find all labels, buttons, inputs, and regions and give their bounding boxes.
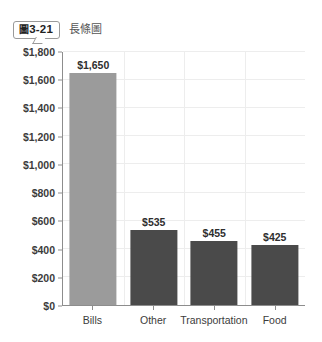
x-axis-tick-label: Food bbox=[263, 314, 287, 326]
y-axis-tick-label: $600 bbox=[32, 216, 55, 227]
bar-slot: $425 bbox=[245, 52, 306, 305]
y-axis-tick-label: $0 bbox=[43, 301, 55, 312]
y-axis-tick-label: $400 bbox=[32, 244, 55, 255]
y-axis-tick-label: $1,000 bbox=[23, 159, 55, 170]
y-axis: $0$200$400$600$800$1,000$1,200$1,400$1,6… bbox=[0, 52, 62, 306]
bar-series: $1,650$535$455$425 bbox=[63, 52, 305, 305]
x-axis-tick-label: Bills bbox=[83, 314, 102, 326]
plot-frame: $1,650$535$455$425 bbox=[62, 52, 305, 306]
x-axis-category: Other bbox=[123, 306, 184, 332]
figure-caption: 圖3-21 長條圖 bbox=[13, 21, 102, 39]
figure-number-badge: 圖3-21 bbox=[13, 21, 60, 39]
bar-value-label: $535 bbox=[142, 216, 165, 228]
x-axis-category: Food bbox=[244, 306, 305, 332]
bar[interactable] bbox=[251, 245, 298, 305]
y-axis-tick-label: $800 bbox=[32, 188, 55, 199]
bar[interactable] bbox=[130, 230, 177, 305]
x-axis-tick-mark bbox=[92, 306, 93, 310]
x-axis: BillsOtherTransportationFood bbox=[62, 306, 305, 332]
y-axis-tick-label: $1,600 bbox=[23, 75, 55, 86]
bar-slot: $535 bbox=[124, 52, 185, 305]
bar[interactable] bbox=[70, 73, 117, 305]
figure-badge-cjk-label: 圖 bbox=[19, 24, 29, 35]
y-axis-tick-label: $1,200 bbox=[23, 131, 55, 142]
x-axis-tick-mark bbox=[275, 306, 276, 310]
figure-caption-text: 長條圖 bbox=[69, 21, 102, 38]
bar-value-label: $425 bbox=[263, 231, 286, 243]
bar[interactable] bbox=[191, 241, 238, 305]
x-axis-category: Bills bbox=[62, 306, 123, 332]
y-axis-tick-label: $200 bbox=[32, 272, 55, 283]
plot-area: $1,650$535$455$425 bbox=[62, 52, 305, 306]
y-axis-tick-label: $1,400 bbox=[23, 103, 55, 114]
bar-value-label: $455 bbox=[203, 227, 226, 239]
figure-badge-number: 3-21 bbox=[29, 23, 53, 35]
bar-slot: $1,650 bbox=[63, 52, 124, 305]
x-axis-tick-label: Other bbox=[140, 314, 166, 326]
x-axis-category: Transportation bbox=[184, 306, 245, 332]
y-axis-tick-label: $1,800 bbox=[23, 47, 55, 58]
x-axis-tick-mark bbox=[214, 306, 215, 310]
bar-chart: $0$200$400$600$800$1,000$1,200$1,400$1,6… bbox=[0, 46, 322, 336]
bar-slot: $455 bbox=[184, 52, 245, 305]
x-axis-tick-mark bbox=[153, 306, 154, 310]
bar-value-label: $1,650 bbox=[77, 59, 109, 71]
x-axis-tick-label: Transportation bbox=[180, 314, 247, 326]
